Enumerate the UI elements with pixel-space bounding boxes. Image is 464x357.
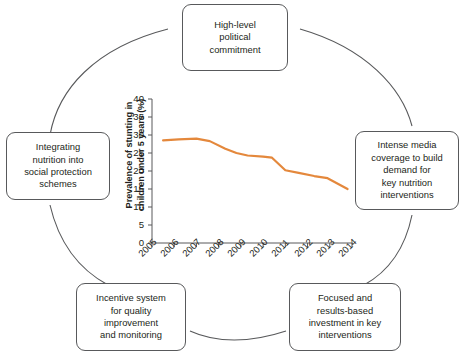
node-line: commitment bbox=[209, 44, 260, 56]
node-intense-media-coverage[interactable]: Intense media coverage to build demand f… bbox=[355, 131, 459, 210]
node-line: and monitoring bbox=[100, 329, 162, 341]
node-line: Integrating bbox=[36, 141, 80, 153]
node-line: nutrition into bbox=[32, 154, 83, 166]
y-axis-tick-label: 35 bbox=[122, 111, 144, 122]
node-high-level-political-commitment[interactable]: High-level political commitment bbox=[182, 4, 288, 71]
arc-bottom-left-to-left bbox=[50, 205, 108, 285]
arc-bottom-right-to-bottom-left bbox=[190, 331, 286, 340]
stunting-cycle-figure: High-level political commitment Intense … bbox=[0, 0, 464, 357]
y-axis-tick-label: 20 bbox=[122, 165, 144, 176]
y-axis-tick-label: 15 bbox=[122, 183, 144, 194]
node-integrating-nutrition-social-protection[interactable]: Integrating nutrition into social protec… bbox=[6, 132, 110, 200]
node-focused-results-based-investment[interactable]: Focused and results-based investment in … bbox=[289, 283, 401, 351]
node-line: key nutrition bbox=[382, 177, 433, 189]
chart-series-line bbox=[163, 139, 347, 189]
node-line: coverage to build bbox=[371, 152, 442, 164]
node-line: Intense media bbox=[378, 139, 437, 151]
node-line: demand for bbox=[383, 164, 430, 176]
node-line: Focused and bbox=[318, 292, 372, 304]
node-line: Incentive system bbox=[96, 292, 166, 304]
node-line: schemes bbox=[39, 178, 77, 190]
node-line: social protection bbox=[24, 166, 92, 178]
arc-right-to-bottom-right bbox=[364, 215, 412, 285]
node-line: investment in key bbox=[309, 317, 381, 329]
y-axis-tick-label: 10 bbox=[122, 201, 144, 212]
node-line: improvement bbox=[104, 317, 158, 329]
node-line: interventions bbox=[318, 329, 371, 341]
y-axis-tick-label: 5 bbox=[122, 219, 144, 230]
y-axis-tick-label: 25 bbox=[122, 147, 144, 158]
stunting-line-chart: Prevalence of stunting in children under… bbox=[108, 88, 358, 278]
node-line: political bbox=[219, 31, 250, 43]
node-incentive-system-quality[interactable]: Incentive system for quality improvement… bbox=[76, 283, 186, 351]
y-axis-tick-label: 30 bbox=[122, 129, 144, 140]
node-line: for quality bbox=[111, 305, 152, 317]
y-axis-tick-label: 40 bbox=[122, 93, 144, 104]
node-line: results-based bbox=[317, 305, 373, 317]
node-line: interventions bbox=[380, 189, 433, 201]
node-line: High-level bbox=[214, 19, 256, 31]
